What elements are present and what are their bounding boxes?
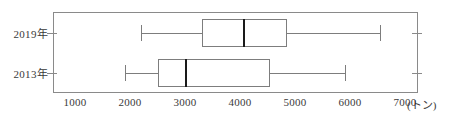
y-axis-tick-mark-right (412, 73, 422, 74)
whisker-upper (287, 33, 381, 34)
whisker-cap-min (125, 65, 126, 81)
y-axis-tick-mark (47, 73, 57, 74)
whisker-upper (270, 73, 344, 74)
y-axis-category-label: 2013年 (14, 65, 49, 81)
x-tick-label-3000: 3000 (173, 96, 196, 108)
box-iqr (158, 59, 271, 87)
whisker-cap-max (380, 25, 381, 41)
x-tick-label-2000: 2000 (118, 96, 141, 108)
whisker-lower (125, 73, 158, 74)
whisker-cap-min (141, 25, 142, 41)
median-line (243, 19, 245, 47)
median-line (185, 59, 187, 87)
boxplot-figure: 2019年2013年 1000200030004000500060007000 … (0, 0, 461, 123)
x-tick-label-1000: 1000 (63, 96, 86, 108)
y-axis-tick-mark (47, 33, 57, 34)
x-axis-unit-label: (トン) (407, 96, 436, 112)
y-axis-category-label: 2019年 (14, 25, 49, 41)
y-axis-tick-mark-right (412, 33, 422, 34)
whisker-cap-max (345, 65, 346, 81)
x-tick-label-5000: 5000 (283, 96, 306, 108)
x-tick-label-6000: 6000 (338, 96, 361, 108)
x-tick-label-4000: 4000 (228, 96, 251, 108)
whisker-lower (141, 33, 202, 34)
